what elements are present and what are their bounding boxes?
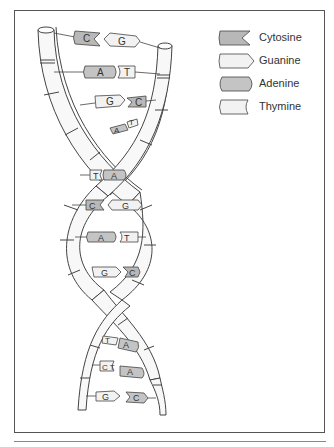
svg-text:A: A	[127, 367, 133, 377]
label-c2: C	[135, 97, 142, 108]
guanine-shape-icon	[218, 53, 256, 69]
svg-text:T: T	[93, 171, 99, 181]
svg-text:A: A	[111, 171, 117, 181]
label-a1: A	[97, 67, 104, 78]
legend-label: Thymine	[259, 100, 301, 112]
svg-text:C: C	[89, 201, 96, 211]
label-c1: C	[83, 33, 90, 44]
svg-text:T: T	[105, 336, 110, 345]
legend-label: Adenine	[259, 77, 299, 89]
legend-label: Cytosine	[259, 31, 302, 43]
label-g1: G	[118, 36, 126, 47]
svg-text:T: T	[124, 233, 130, 243]
legend-item-guanine: Guanine	[218, 51, 318, 71]
legend-item-thymine: Thymine	[218, 97, 318, 117]
svg-text:C T: C T	[102, 363, 115, 372]
svg-text:C: C	[129, 268, 136, 278]
svg-text:A: A	[123, 340, 129, 350]
label-t1: T	[124, 67, 130, 78]
svg-text:T: T	[129, 118, 134, 127]
svg-text:G: G	[122, 201, 129, 211]
svg-text:G: G	[101, 268, 108, 278]
legend-label: Guanine	[259, 54, 301, 66]
svg-text:A: A	[114, 126, 120, 135]
legend-item-adenine: Adenine	[218, 74, 318, 94]
thymine-shape-icon	[218, 99, 252, 115]
svg-text:C: C	[133, 393, 140, 403]
cytosine-shape-icon	[218, 30, 252, 46]
legend-item-cytosine: Cytosine	[218, 28, 318, 48]
label-g2: G	[106, 96, 114, 107]
svg-text:A: A	[98, 233, 104, 243]
adenine-shape-icon	[218, 76, 256, 92]
svg-text:G: G	[102, 392, 109, 402]
